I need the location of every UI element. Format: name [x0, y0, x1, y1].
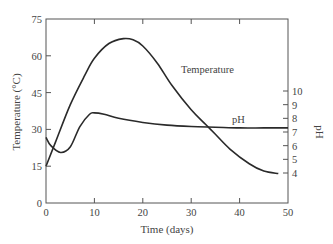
y-tick-label: 0 [37, 198, 42, 209]
x-tick-label: 0 [43, 207, 48, 218]
chart: 010203040500153045607545678910 Time (day… [0, 0, 333, 244]
ph-curve [46, 113, 288, 153]
x-tick-label: 20 [138, 207, 149, 218]
temperature-annotation: Temperature [181, 64, 234, 75]
y-tick-label: 15 [32, 161, 43, 172]
y2-tick-label: 4 [292, 168, 298, 179]
x-tick-label: 10 [89, 207, 100, 218]
x-tick-label: 30 [186, 207, 197, 218]
ph-annotation: pH [232, 114, 245, 125]
y-axis-label: Temperature (°C) [10, 73, 23, 151]
y2-tick-label: 8 [292, 113, 297, 124]
y-tick-label: 45 [32, 88, 43, 99]
y-tick-label: 75 [32, 14, 43, 25]
y2-tick-label: 9 [292, 100, 297, 111]
y-tick-label: 30 [32, 124, 43, 135]
plot-frame [46, 19, 288, 203]
ticks: 010203040500153045607545678910 [32, 14, 303, 218]
x-tick-label: 40 [234, 207, 245, 218]
y2-tick-label: 5 [292, 154, 297, 165]
temperature-curve [46, 38, 278, 173]
y2-tick-label: 10 [292, 86, 303, 97]
curves [46, 38, 288, 173]
x-axis-label: Time (days) [140, 223, 193, 236]
y-tick-label: 60 [32, 51, 43, 62]
y2-axis-label: pH [314, 125, 326, 139]
y2-tick-label: 7 [292, 127, 297, 138]
y2-tick-label: 6 [292, 141, 297, 152]
x-tick-label: 50 [283, 207, 294, 218]
